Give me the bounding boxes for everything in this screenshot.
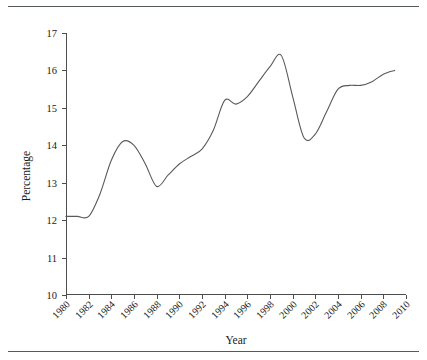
series-group	[66, 54, 395, 218]
x-tick-label: 2010	[390, 299, 412, 321]
x-tick-label: 1988	[141, 299, 163, 321]
x-tick-label: 1986	[118, 299, 140, 321]
x-tick-label: 1982	[73, 299, 95, 321]
x-tick-label: 1980	[50, 299, 72, 321]
chart-plot-area: 1011121314151617 19801982198419861988199…	[0, 0, 427, 360]
x-tick-label: 2004	[322, 299, 344, 321]
y-axis-title: Percentage	[20, 151, 33, 201]
y-tick-label: 10	[47, 290, 58, 301]
x-axis-title: Year	[225, 334, 246, 346]
y-tick-label: 11	[47, 253, 57, 264]
x-tick-label: 1992	[186, 299, 208, 321]
x-tick-label: 2008	[367, 299, 389, 321]
y-axis-tick-labels: 1011121314151617	[47, 28, 58, 301]
series-line-percentage	[66, 54, 395, 218]
y-axis-group: 1011121314151617	[47, 28, 67, 301]
x-tick-label: 1990	[163, 299, 185, 321]
y-tick-label: 16	[47, 65, 58, 76]
line-chart-svg: 1011121314151617 19801982198419861988199…	[0, 0, 427, 360]
y-tick-label: 13	[47, 178, 58, 189]
x-tick-label: 1994	[209, 299, 231, 321]
y-tick-label: 15	[47, 103, 58, 114]
y-axis-ticks	[62, 34, 66, 296]
x-tick-label: 1984	[95, 299, 117, 321]
x-axis-group: 1980198219841986198819901992199419961998…	[50, 295, 412, 321]
y-tick-label: 17	[47, 28, 58, 39]
x-tick-label: 2000	[277, 299, 299, 321]
x-tick-label: 1998	[254, 299, 276, 321]
x-axis-tick-labels: 1980198219841986198819901992199419961998…	[50, 299, 412, 321]
y-tick-label: 14	[47, 140, 58, 151]
x-tick-label: 2002	[299, 299, 321, 321]
x-axis-ticks	[67, 295, 407, 299]
x-tick-label: 2006	[345, 299, 367, 321]
x-tick-label: 1996	[231, 299, 253, 321]
y-tick-label: 12	[47, 215, 58, 226]
figure-page: 1011121314151617 19801982198419861988199…	[0, 0, 427, 360]
